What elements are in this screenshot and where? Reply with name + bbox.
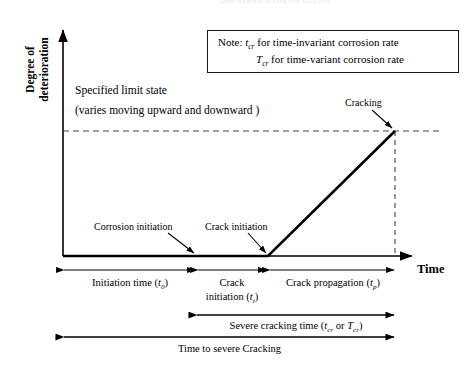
note-box: Note: tcr for time-invariant corrosion r… [207, 30, 459, 73]
y-axis-label-line1: Degree of [24, 46, 36, 93]
note-line-2: Tcr for time-variant corrosion rate [256, 53, 404, 65]
dim-text-initiation: Initiation time ( [92, 277, 158, 288]
dim-label-initiation-time: Initiation time (t0) [64, 277, 196, 289]
dim-label-time-to-severe-cracking: Time to severe Cracking [64, 343, 395, 355]
y-axis-label: Degree of deterioration [24, 10, 51, 130]
dim-text-crackinit: initiation ( [206, 291, 250, 302]
note-prefix: Note: [218, 36, 245, 48]
limit-state-label-line2: (varies moving upward and downward ) [75, 104, 259, 117]
crack-initiation-leader [248, 233, 266, 253]
dim-label-crack-propagation: Crack propagation (tp) [271, 277, 395, 289]
dim-tail-0: ) [164, 277, 168, 288]
annotation-cracking: Cracking [345, 97, 382, 108]
annotation-crack-initiation: Crack initiation [205, 221, 268, 232]
limit-state-label-line1: Specified limit state [75, 84, 167, 97]
dim-tail-i: ) [255, 291, 259, 302]
x-axis-label: Time [417, 262, 445, 276]
dim-tail-p: ) [376, 277, 380, 288]
note-text-2: for time-variant corrosion rate [268, 53, 404, 65]
note-line-1: Note: tcr for time-invariant corrosion r… [218, 36, 399, 48]
dim-mid-or: or [333, 320, 347, 331]
corrosion-initiation-leader [168, 233, 194, 253]
dim-label-crack-initiation-line1: Crack [197, 277, 267, 289]
dim-label-crack-initiation-line2: initiation (ti) [193, 291, 271, 303]
figure-canvas: Deterioration of concrete structure [0, 0, 467, 369]
deterioration-curve [63, 131, 395, 256]
dim-label-severe-cracking-time: Severe cracking time (tcr or Tcr) [197, 320, 395, 332]
annotation-corrosion-initiation: Corrosion initiation [94, 221, 173, 232]
dim-text-severe: Severe cracking time ( [230, 320, 325, 331]
dim-text-prop: Crack propagation ( [286, 277, 370, 288]
y-axis-label-line2: deterioration [38, 37, 50, 102]
note-text-1: for time-invariant corrosion rate [255, 36, 399, 48]
cracking-leader [372, 110, 392, 128]
dim-tail-cr: ) [359, 320, 363, 331]
